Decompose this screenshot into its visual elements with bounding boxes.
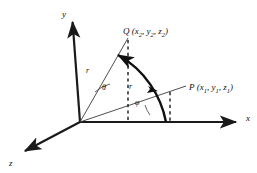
point-q-label: Q (x2, y2, z2) xyxy=(123,26,168,38)
y-axis xyxy=(73,22,80,122)
phi-label: φ xyxy=(135,98,139,107)
y-axis-label: y xyxy=(62,9,66,19)
spherical-coordinates-figure: y x z Q (x2, y2, z2) P (x1, y1, z1) r r … xyxy=(0,0,257,173)
radius-line-q xyxy=(80,38,128,122)
radius-p-label: r xyxy=(129,82,132,91)
z-axis-label: z xyxy=(9,158,13,168)
z-axis xyxy=(25,122,80,151)
x-axis-label: x xyxy=(246,113,250,123)
phi-arc xyxy=(145,105,150,115)
theta-label: θ xyxy=(102,83,106,92)
sweep-arc xyxy=(118,55,166,122)
point-p-label: P (x1, y1, z1) xyxy=(189,82,233,94)
radius-q-label: r xyxy=(86,66,89,75)
